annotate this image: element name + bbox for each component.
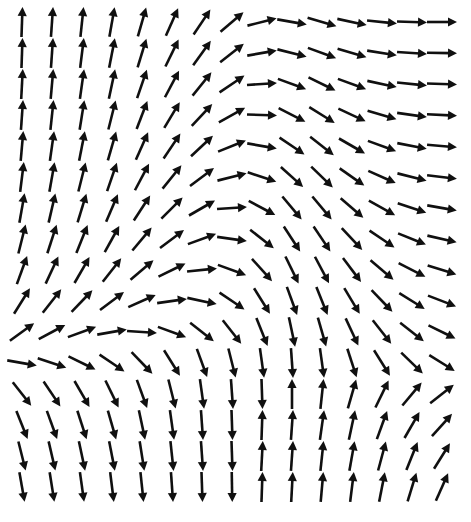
vector-arrow-shaft <box>261 379 262 402</box>
vector-arrow-shaft <box>51 14 53 37</box>
vector-arrow-shaft <box>21 45 22 68</box>
vector-arrow-shaft <box>247 83 270 85</box>
vector-arrow-shaft <box>231 379 233 402</box>
vector-arrow-shaft <box>427 83 450 84</box>
vector-arrow-shaft <box>291 348 293 371</box>
vector-arrow-shaft <box>291 448 293 471</box>
vector-arrow-shaft <box>201 441 203 464</box>
vector-arrow-shaft <box>231 441 232 464</box>
vector-arrow-shaft <box>127 331 150 333</box>
vector-arrow-shaft <box>397 21 420 22</box>
vector-arrow-shaft <box>21 76 22 99</box>
vector-arrow-shaft <box>261 448 262 471</box>
vector-field-figure <box>0 0 471 522</box>
vector-arrow-shaft <box>427 114 450 115</box>
vector-arrow-shaft <box>291 417 293 440</box>
vector-arrow-shaft <box>171 472 173 495</box>
vector-arrow-shaft <box>291 479 292 502</box>
vector-arrow-shaft <box>201 472 202 495</box>
vector-arrow-shaft <box>261 479 262 502</box>
quiver-plot <box>0 0 471 522</box>
vector-arrow-shaft <box>51 45 53 68</box>
vector-arrow-shaft <box>201 410 203 433</box>
vector-arrow-shaft <box>247 114 270 115</box>
vector-arrow-shaft <box>231 410 232 433</box>
vector-arrow-shaft <box>21 107 23 130</box>
vector-arrow-shaft <box>217 207 240 209</box>
vector-arrow-shaft <box>397 52 420 54</box>
vector-arrow-shaft <box>21 14 22 37</box>
vector-arrow-shaft <box>261 417 262 440</box>
